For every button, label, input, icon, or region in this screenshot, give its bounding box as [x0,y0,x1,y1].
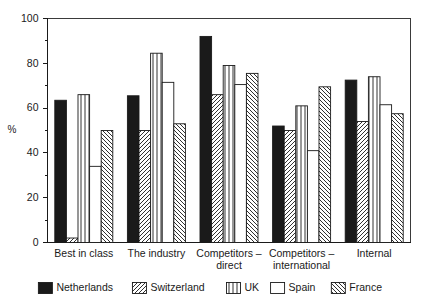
legend-label: Netherlands [56,281,113,293]
bar [66,238,78,242]
y-axis-ticks [43,19,48,243]
x-category-label: international [273,259,330,271]
legend-label: Switzerland [150,281,204,293]
x-category-label: Competitors – [196,247,262,259]
legend-swatch [38,283,52,294]
x-category-label: Competitors – [269,247,335,259]
bar [200,36,212,242]
legend-swatch [331,283,345,294]
legend-label: UK [244,281,259,293]
bar [319,87,331,243]
bar [392,114,404,243]
bar [284,131,296,243]
x-axis-category-labels: Best in classThe industryCompetitors –di… [54,247,391,271]
y-axis-title: % [8,124,17,135]
bar [55,100,67,242]
bar [151,53,163,242]
x-category-label: Internal [357,247,392,259]
y-axis-tick-labels: 020406080100 [21,12,39,248]
legend-swatch [226,283,240,294]
chart-canvas: 020406080100 % Best in classThe industry… [0,0,421,302]
bar [380,105,392,243]
bar [139,131,151,243]
legend-swatch [132,283,146,294]
bar [101,131,113,243]
bar [296,106,308,243]
legend-label: France [349,281,382,293]
bar [127,96,139,243]
bar [90,166,102,242]
bar [212,95,224,243]
bar [368,77,380,243]
y-tick-label: 0 [33,236,39,248]
bar [78,95,90,243]
bar [235,85,247,243]
legend-swatch [271,283,285,294]
grouped-bar-chart: 020406080100 % Best in classThe industry… [0,0,421,302]
bar [223,66,235,243]
y-tick-label: 100 [21,12,39,24]
y-tick-label: 40 [27,146,39,158]
x-category-label: The industry [128,247,187,259]
y-tick-label: 60 [27,101,39,113]
legend-label: Spain [289,281,316,293]
bar [246,73,258,242]
bar [357,122,369,243]
bar [174,124,186,243]
bar [162,82,174,242]
x-category-label: direct [216,259,242,271]
bar [345,80,357,242]
bar [307,151,319,243]
x-category-label: Best in class [54,247,113,259]
chart-legend: NetherlandsSwitzerlandUKSpainFrance [38,281,382,294]
bars-layer [55,36,403,242]
bar [273,126,285,242]
y-tick-label: 80 [27,57,39,69]
y-tick-label: 20 [27,191,39,203]
